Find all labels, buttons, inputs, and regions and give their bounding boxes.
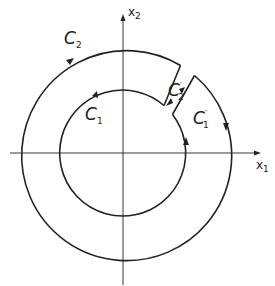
x2-arrow-icon <box>121 14 126 21</box>
x2-label-sub: 2 <box>135 11 141 21</box>
outer-circle-c2 <box>22 51 232 261</box>
x1-label-sub: 1 <box>263 164 269 174</box>
x1-axis-label: x1 <box>256 158 269 174</box>
c1prime-sub: 1 <box>203 120 209 130</box>
diagram: x2 x1 C2 C1 C′2 C′1 <box>0 0 275 286</box>
label-c1: C1 <box>85 104 103 126</box>
label-c1prime: C′1 <box>193 108 209 130</box>
c1prime-sup: ′ <box>205 109 207 119</box>
label-c2: C2 <box>64 28 82 50</box>
contour-figure <box>0 0 275 286</box>
c2prime-sub: 2 <box>178 92 184 102</box>
c2-sub: 2 <box>76 40 82 50</box>
c1-sub: 1 <box>97 116 103 126</box>
label-c2prime: C′2 <box>168 80 184 102</box>
c2prime-sup: ′ <box>180 81 182 91</box>
c2-name: C <box>64 28 76 48</box>
x1-arrow-icon <box>254 151 261 156</box>
c1-name: C <box>85 104 97 124</box>
arrow-c2-icon <box>66 58 74 65</box>
x2-axis-label: x2 <box>128 5 141 21</box>
